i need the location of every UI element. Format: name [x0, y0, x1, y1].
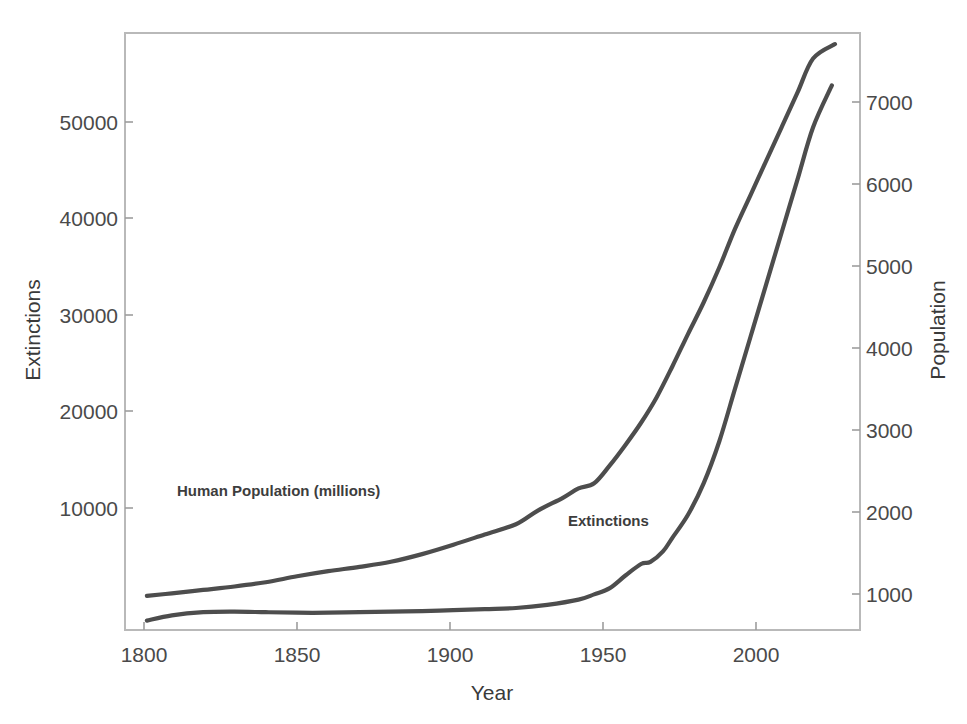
y2tick-label-2000: 2000	[866, 501, 913, 524]
dual-axis-line-chart: 50000 40000 30000 20000 10000 Extinction…	[0, 0, 967, 724]
ytick-label-30000: 30000	[60, 304, 118, 327]
right-axis-title: Population	[926, 280, 949, 379]
y2tick-label-3000: 3000	[866, 419, 913, 442]
ytick-label-10000: 10000	[60, 497, 118, 520]
xtick-label-1950: 1950	[580, 643, 627, 666]
ytick-label-50000: 50000	[60, 111, 118, 134]
xtick-label-1800: 1800	[121, 643, 168, 666]
left-axis-title: Extinctions	[21, 279, 44, 381]
xtick-label-1900: 1900	[427, 643, 474, 666]
y2tick-label-7000: 7000	[866, 91, 913, 114]
y2tick-label-6000: 6000	[866, 173, 913, 196]
xtick-label-1850: 1850	[274, 643, 321, 666]
inline-label-extinctions: Extinctions	[568, 512, 649, 529]
y2tick-label-5000: 5000	[866, 255, 913, 278]
ytick-label-20000: 20000	[60, 400, 118, 423]
y2tick-label-4000: 4000	[866, 337, 913, 360]
inline-label-human-population: Human Population (millions)	[177, 482, 380, 499]
y2tick-label-1000: 1000	[866, 583, 913, 606]
xtick-label-2000: 2000	[733, 643, 780, 666]
ytick-label-40000: 40000	[60, 207, 118, 230]
x-axis-title: Year	[471, 681, 513, 704]
